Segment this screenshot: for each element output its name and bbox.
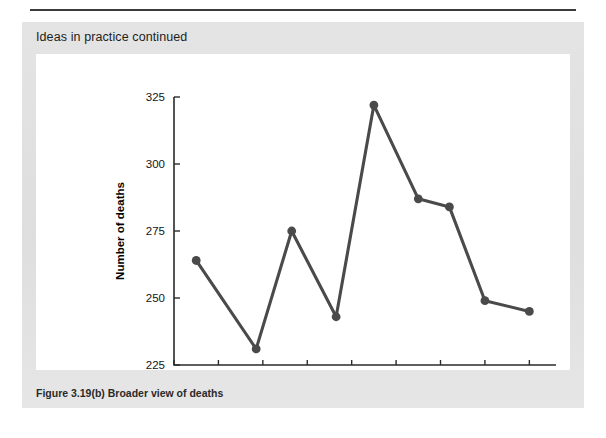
y-tick-label: 300 <box>146 158 165 170</box>
x-tick-label: 1955 <box>339 369 365 370</box>
data-point-marker <box>414 194 423 203</box>
data-point-marker <box>287 227 296 236</box>
ideas-in-practice-panel: Ideas in practice continued 225250275300… <box>22 22 584 408</box>
y-tick-label: 250 <box>146 292 165 304</box>
y-axis-ticks: 225250275300325 <box>146 91 180 370</box>
x-tick-label: 1951 <box>161 369 187 370</box>
chart-axes <box>174 97 556 365</box>
line-chart: 225250275300325 19511953195519571959 Num… <box>36 54 570 370</box>
data-point-marker <box>369 101 378 110</box>
y-tick-label: 325 <box>146 91 165 103</box>
y-tick-label: 275 <box>146 225 165 237</box>
chart-card: 225250275300325 19511953195519571959 Num… <box>36 54 570 370</box>
deaths-series <box>192 101 534 354</box>
data-point-marker <box>252 345 261 354</box>
y-axis-label: Number of deaths <box>114 182 126 280</box>
page-top-rule <box>30 9 576 11</box>
panel-title: Ideas in practice continued <box>36 30 187 44</box>
x-axis-ticks: 19511953195519571959 <box>161 360 542 370</box>
data-point-marker <box>445 202 454 211</box>
data-point-marker <box>525 307 534 316</box>
data-point-marker <box>192 256 201 265</box>
data-point-marker <box>332 312 341 321</box>
x-tick-label: 1957 <box>428 369 454 370</box>
data-point-marker <box>481 296 490 305</box>
x-tick-label: 1953 <box>250 369 276 370</box>
figure-caption: Figure 3.19(b) Broader view of deaths <box>36 387 223 399</box>
x-tick-label: 1959 <box>517 369 543 370</box>
